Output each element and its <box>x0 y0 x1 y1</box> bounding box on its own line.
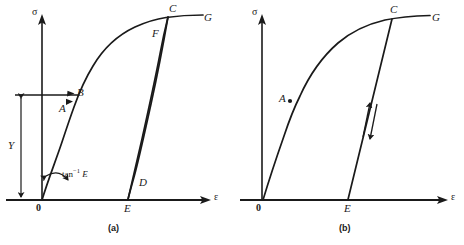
panel-b-origin-label: 0 <box>256 203 261 213</box>
panel-b-unload-arrow <box>370 104 377 139</box>
panel-a-point-label-c: C <box>169 3 176 14</box>
modulus-tan-text: tan <box>62 169 73 179</box>
panel-b-y-axis-label: σ <box>252 7 257 17</box>
panel-a-point-label-g: G <box>204 12 212 23</box>
panel-a-point-label-d: D <box>139 177 147 188</box>
panel-a-point-label-a: A <box>59 103 66 114</box>
panel-b-point-label-c: C <box>390 4 397 15</box>
panel-a-modulus-label: tan−1 E <box>62 168 88 179</box>
panel-a-point-label-f: F <box>152 28 159 39</box>
panel-a-point-label-b: B <box>77 87 84 98</box>
panel-a-yield-label: Y <box>8 140 14 151</box>
panel-a-point-label-e: E <box>124 203 131 214</box>
panel-b <box>240 14 448 204</box>
panel-a <box>6 14 211 204</box>
panel-b-elastic-line <box>348 19 392 200</box>
panel-a-caption: (a) <box>108 224 119 233</box>
panel-b-point-label-g: G <box>432 12 440 23</box>
panel-b-loading-curve <box>263 16 430 201</box>
panel-a-point-marker-a <box>66 99 73 105</box>
modulus-symbol: E <box>82 169 88 179</box>
panel-a-reloading-curve <box>128 17 168 199</box>
panel-b-x-axis-label: ε <box>451 192 455 202</box>
stress-strain-figure <box>0 0 464 245</box>
panel-a-y-axis-label: σ <box>32 7 37 17</box>
panel-a-x-axis-label: ε <box>214 192 218 202</box>
modulus-exponent: −1 <box>73 167 80 174</box>
panel-b-point-label-a: A <box>279 93 286 104</box>
panel-b-point-label-e: E <box>344 203 351 214</box>
panel-b-caption: (b) <box>339 224 351 233</box>
panel-b-reload-arrow <box>363 103 370 137</box>
panel-b-point-marker-a <box>288 99 292 103</box>
panel-a-origin-label: 0 <box>36 203 41 213</box>
